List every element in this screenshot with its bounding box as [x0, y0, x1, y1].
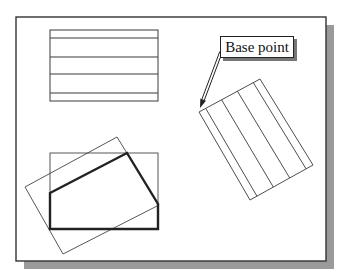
diagram-canvas: [0, 0, 347, 279]
base-point-callout: Base point: [220, 36, 294, 58]
base-point-label: Base point: [225, 39, 289, 56]
